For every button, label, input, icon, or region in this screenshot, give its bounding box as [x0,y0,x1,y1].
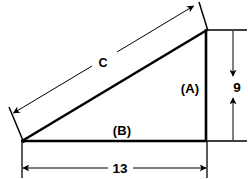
height-value-label: 9 [233,80,241,95]
base-value-label: 13 [112,161,128,176]
figure-background [0,0,248,179]
hypotenuse-label: C [98,56,107,70]
horizontal-side-label: (B) [113,123,132,138]
vertical-side-label: (A) [181,81,200,96]
triangle-diagram-figure: C (A) (B) 9 13 [0,0,248,179]
diagram-canvas: C (A) (B) 9 13 [0,0,248,179]
